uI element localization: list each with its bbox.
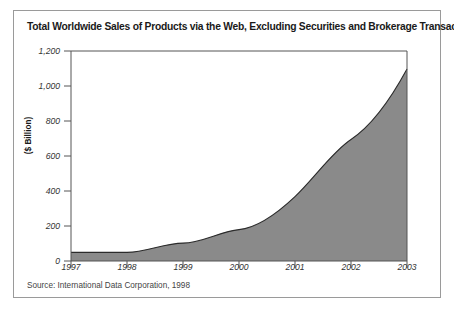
y-tick-label: 1,000 <box>26 81 60 91</box>
x-axis-tick-labels: 1997 1998 1999 2000 2001 2002 2003 <box>14 262 442 278</box>
x-tick-label: 2000 <box>217 262 261 272</box>
y-tick-label: 200 <box>26 221 60 231</box>
y-tick-label: 1,200 <box>26 46 60 56</box>
area-series-fill <box>71 69 407 261</box>
y-tick-label: 600 <box>26 151 60 161</box>
area-chart-svg <box>14 11 442 299</box>
x-tick-label: 2003 <box>385 262 429 272</box>
x-tick-label: 2002 <box>329 262 373 272</box>
x-tick-label: 1997 <box>49 262 93 272</box>
x-tick-label: 2001 <box>273 262 317 272</box>
x-tick-label: 1999 <box>161 262 205 272</box>
x-tick-label: 1998 <box>105 262 149 272</box>
chart-figure: Total Worldwide Sales of Products via th… <box>13 10 441 298</box>
plot-area-wrapper: ($ Billion) 1,200 1,000 800 600 400 200 … <box>14 11 442 299</box>
y-tick-label: 400 <box>26 186 60 196</box>
y-tick-label: 800 <box>26 116 60 126</box>
y-axis-tick-labels: 1,200 1,000 800 600 400 200 0 <box>24 11 60 299</box>
source-note: Source: International Data Corporation, … <box>27 281 190 290</box>
